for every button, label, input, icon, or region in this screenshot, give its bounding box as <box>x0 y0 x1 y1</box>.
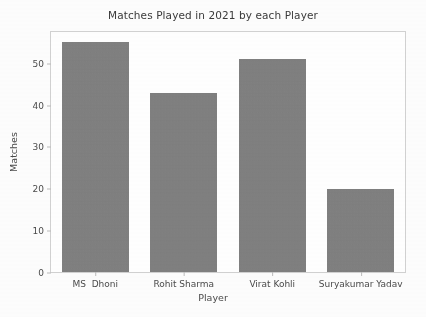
bars-layer <box>51 32 405 272</box>
y-tick-mark <box>47 63 51 64</box>
y-tick: 40 <box>11 105 51 106</box>
y-tick-mark <box>47 272 51 273</box>
x-tick-label: Rohit Sharma <box>153 279 214 289</box>
y-tick-label: 0 <box>38 267 44 277</box>
y-tick: 10 <box>11 230 51 231</box>
y-tick: 0 <box>11 272 51 273</box>
x-tick-label: Virat Kohli <box>249 279 295 289</box>
y-tick: 50 <box>11 63 51 64</box>
y-tick: 30 <box>11 146 51 147</box>
y-tick-mark <box>47 189 51 190</box>
x-axis-label: Player <box>0 292 426 303</box>
y-tick-label: 20 <box>33 184 44 194</box>
plot-area: 01020304050 MS DhoniRohit SharmaVirat Ko… <box>50 31 406 273</box>
x-tick-label: Suryakumar Yadav <box>319 279 403 289</box>
y-tick-label: 10 <box>33 225 44 235</box>
y-axis-label: Matches <box>8 132 19 172</box>
x-tick-label: MS Dhoni <box>72 279 118 289</box>
bar <box>327 189 394 272</box>
y-tick-label: 50 <box>33 58 44 68</box>
x-tick-mark <box>361 272 362 276</box>
y-tick-mark <box>47 147 51 148</box>
y-tick-label: 40 <box>33 100 44 110</box>
y-tick: 20 <box>11 188 51 189</box>
chart-figure: Matches Played in 2021 by each Player Ma… <box>0 0 426 317</box>
x-tick-mark <box>95 272 96 276</box>
bar <box>239 59 306 272</box>
y-tick-mark <box>47 105 51 106</box>
bar <box>62 42 129 272</box>
x-tick: Suryakumar Yadav <box>319 272 403 289</box>
x-tick: Rohit Sharma <box>153 272 214 289</box>
y-tick-label: 30 <box>33 142 44 152</box>
chart-title: Matches Played in 2021 by each Player <box>0 9 426 21</box>
x-tick-mark <box>272 272 273 276</box>
y-tick-mark <box>47 230 51 231</box>
x-tick-mark <box>184 272 185 276</box>
x-tick: MS Dhoni <box>72 272 118 289</box>
bar <box>150 93 217 272</box>
x-tick: Virat Kohli <box>249 272 295 289</box>
